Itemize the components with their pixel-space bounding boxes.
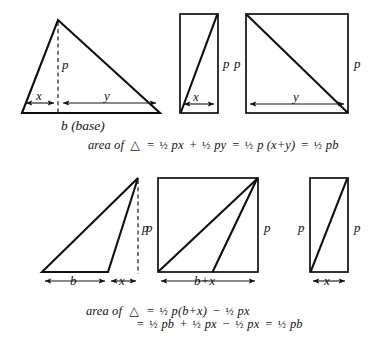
label-obtuse-extension-x: x [118, 273, 125, 288]
label-rect-sub-width: x [323, 273, 330, 288]
label-altitude-p: p [61, 57, 69, 72]
label-rect-sub-height-right-p: p [353, 220, 361, 235]
label-rect-y-height-left-p: p [233, 56, 241, 71]
equation-bottom-line-1: area of △ = ½ p(b+x) − ½ px [86, 304, 250, 318]
panel-rect-sum: b+x p p [145, 178, 271, 288]
rect-sum-diagonal-full [159, 179, 257, 271]
eq-bot-equals-2: = [136, 317, 145, 331]
eq-bot-half-3: ½ [149, 318, 157, 330]
label-rect-y-height-right-p: p [353, 56, 361, 71]
eq-bot-lead: area of [86, 304, 123, 318]
eq-bot-half-5: ½ [235, 318, 243, 330]
label-rect-y-width: y [291, 89, 299, 104]
panel-acute-triangle: p x y b (base) [22, 20, 160, 133]
eq-bot-equals-1: = [146, 304, 155, 318]
label-segment-y: y [102, 88, 110, 103]
equation-bottom-line-2: = ½ pb + ½ px − ½ px = ½ pb [136, 317, 303, 331]
eq-bot-minus-2: − [222, 317, 231, 331]
eq-top-equals-1: = [146, 138, 155, 152]
eq-bot-equals-3: = [265, 317, 274, 331]
rect-x-diagonal [181, 15, 217, 112]
label-rect-x-height-p: p [222, 56, 230, 71]
eq-top-term-4: pb [325, 138, 339, 152]
equation-top-line: area of △ = ½ px + ½ py = ½ p (x+y) = ½ … [88, 138, 339, 152]
eq-bot-minus-1: − [212, 304, 221, 318]
eq-top-term-1: px [171, 138, 184, 152]
eq-bot-half-2: ½ [226, 305, 234, 317]
label-rect-sub-height-left-p: p [297, 220, 305, 235]
rect-sum-diagonal-partial [213, 179, 257, 271]
eq-bot-plus-2: + [179, 317, 188, 331]
panel-rect-y: y p p [233, 14, 361, 113]
eq-bot-triangle-glyph: △ [129, 304, 139, 318]
eq-bot-half-4: ½ [193, 318, 201, 330]
eq-bot-term-6: pb [289, 317, 303, 331]
eq-bot-half-1: ½ [159, 305, 167, 317]
acute-triangle-outline [22, 20, 160, 113]
eq-top-half-4: ½ [314, 139, 322, 151]
panel-obtuse-triangle: p b x [42, 178, 149, 288]
eq-bot-term-3: pb [160, 317, 174, 331]
eq-bot-half-6: ½ [278, 318, 286, 330]
eq-bot-term-2: px [237, 304, 250, 318]
eq-top-triangle-glyph: △ [130, 138, 140, 152]
eq-top-equals-2: = [231, 138, 240, 152]
label-rect-sum-height-left-p: p [145, 220, 153, 235]
label-rect-x-width: x [192, 89, 199, 104]
eq-top-lead: area of [88, 138, 125, 152]
equation-top: area of △ = ½ px + ½ py = ½ p (x+y) = ½ … [88, 138, 339, 152]
eq-bot-term-4: px [204, 317, 217, 331]
obtuse-triangle-outline [42, 178, 138, 272]
equation-bottom: area of △ = ½ p(b+x) − ½ px = ½ pb + ½ p… [86, 304, 303, 331]
eq-bot-term-5: px [246, 317, 259, 331]
label-base: b (base) [61, 118, 105, 133]
eq-top-term-2: py [213, 138, 226, 152]
panel-rect-x: x p [180, 14, 230, 113]
eq-top-half-2: ½ [202, 139, 210, 151]
eq-top-plus: + [189, 138, 198, 152]
eq-top-equals-3: = [300, 138, 309, 152]
panel-rect-sub: x p p [297, 178, 361, 288]
rect-sub-diagonal [311, 179, 347, 271]
figure-canvas: p x y b (base) x p y p p area of △ [0, 0, 374, 344]
eq-top-term-3: p (x+y) [256, 138, 295, 152]
label-rect-sum-width: b+x [194, 273, 215, 288]
eq-bot-term-1: p(b+x) [171, 304, 207, 318]
label-obtuse-base-b: b [70, 273, 77, 288]
geometry-figure: p x y b (base) x p y p p area of △ [0, 0, 374, 344]
label-rect-sum-height-right-p: p [263, 220, 271, 235]
label-segment-x: x [35, 88, 42, 103]
eq-top-half-1: ½ [159, 139, 167, 151]
eq-top-half-3: ½ [245, 139, 253, 151]
